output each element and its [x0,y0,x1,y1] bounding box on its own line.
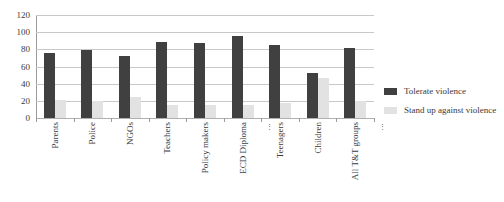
y-tick-label: 40 [21,79,30,88]
x-label-slot: Policy makers [198,122,212,200]
x-axis-category-label: Teenagers [275,122,285,158]
y-tick-label: 80 [21,45,30,54]
x-label-slot: Children [311,122,325,200]
plot-area [36,15,374,118]
x-tick [374,118,375,122]
bar [280,103,291,118]
x-label-slot: All T&T groups⋮ [348,122,362,200]
bar [55,100,66,118]
bar-group [149,15,187,118]
y-tick-label: 60 [21,62,30,71]
bar [167,105,178,118]
legend-item[interactable]: Stand up against violence [384,105,504,115]
y-tick-label: 0 [26,114,31,123]
y-axis-labels: 120100806040200 [0,15,33,118]
bar-group [36,15,74,118]
x-axis-category-label: Police [87,122,97,145]
x-axis-category-label: Teachers [162,122,172,154]
x-axis-category-label: Parents [50,122,60,149]
x-axis-category-label: All T&T groups [350,122,360,180]
bar-groups [36,15,374,118]
bar-group [337,15,375,118]
x-axis-category-label: Policy makers [200,122,210,173]
x-label-slot: Teenagers [273,122,287,200]
bar [355,101,366,118]
bar-chart-figure: 120100806040200 ParentsPoliceNGOsTeacher… [0,0,504,202]
legend-label: Tolerate violence [404,86,466,96]
bar [205,105,216,118]
x-label-slot: Teachers [160,122,174,200]
x-axis-labels: ParentsPoliceNGOsTeachersPolicy makersEC… [36,122,374,200]
x-label-slot: Parents [48,122,62,200]
legend-label: Stand up against violence [404,105,496,115]
bar [243,105,254,118]
bar [318,78,329,118]
x-label-slot: NGOs [123,122,137,200]
bar [119,56,130,118]
legend-swatch-dark [384,88,397,95]
bar [130,97,141,118]
y-tick-label: 20 [21,96,30,105]
x-label-slot: Police [85,122,99,200]
x-label-slot: ECD Diploma⋮ [236,122,250,200]
legend-swatch-light [384,107,397,114]
bar [344,48,355,118]
bar-group [224,15,262,118]
bar-group [261,15,299,118]
y-tick-label: 120 [17,11,31,20]
bar-group [111,15,149,118]
chart-legend: Tolerate violenceStand up against violen… [384,86,504,124]
x-axis-label-mark: ⋮ [379,124,387,131]
legend-item[interactable]: Tolerate violence [384,86,504,96]
bar [307,73,318,118]
bar [81,50,92,118]
y-tick-label: 100 [17,28,31,37]
bar [269,45,280,118]
x-axis-category-label: Children [313,122,323,154]
bar [232,36,243,118]
bar [156,42,167,118]
x-axis-category-label: ECD Diploma [238,122,248,174]
bar-group [299,15,337,118]
bar [194,43,205,118]
bar [92,101,103,118]
bar-group [74,15,112,118]
x-axis-category-label: NGOs [125,122,135,145]
bar [44,53,55,118]
bar-group [186,15,224,118]
